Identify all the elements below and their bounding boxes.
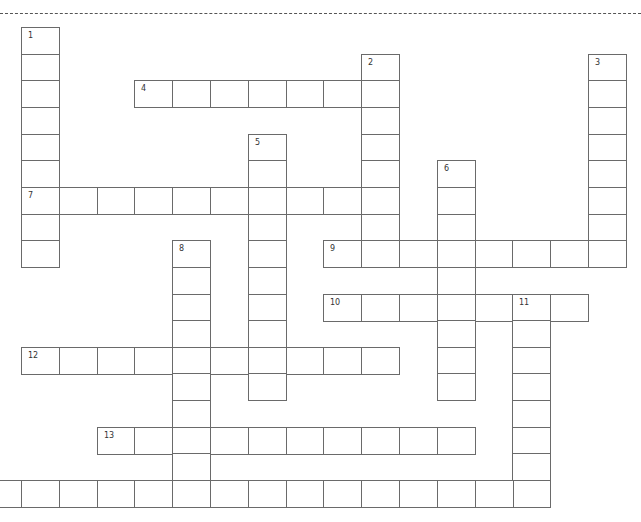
crossword-cell[interactable]: 9 bbox=[323, 240, 362, 268]
crossword-cell[interactable] bbox=[134, 187, 173, 215]
crossword-cell[interactable] bbox=[437, 294, 476, 322]
crossword-cell[interactable] bbox=[588, 80, 627, 108]
crossword-cell[interactable] bbox=[172, 427, 211, 455]
crossword-cell[interactable] bbox=[437, 480, 476, 508]
crossword-cell[interactable] bbox=[134, 480, 173, 508]
crossword-cell[interactable] bbox=[361, 294, 400, 322]
crossword-cell[interactable] bbox=[248, 240, 287, 268]
crossword-cell[interactable] bbox=[399, 294, 438, 322]
crossword-cell[interactable] bbox=[437, 240, 476, 268]
crossword-cell[interactable] bbox=[172, 347, 211, 375]
crossword-cell[interactable] bbox=[0, 480, 22, 508]
crossword-cell[interactable] bbox=[210, 347, 249, 375]
crossword-cell[interactable] bbox=[59, 480, 98, 508]
crossword-cell[interactable] bbox=[323, 480, 362, 508]
crossword-cell[interactable] bbox=[21, 134, 60, 162]
crossword-cell[interactable] bbox=[475, 294, 514, 322]
crossword-cell[interactable] bbox=[475, 480, 514, 508]
crossword-cell[interactable]: 10 bbox=[323, 294, 362, 322]
crossword-cell[interactable] bbox=[248, 294, 287, 322]
crossword-cell[interactable] bbox=[437, 373, 476, 401]
crossword-cell[interactable] bbox=[512, 373, 551, 401]
crossword-cell[interactable] bbox=[172, 294, 211, 322]
crossword-cell[interactable]: 13 bbox=[97, 427, 136, 455]
crossword-cell[interactable] bbox=[512, 240, 551, 268]
crossword-cell[interactable] bbox=[248, 347, 287, 375]
crossword-cell[interactable] bbox=[59, 187, 98, 215]
crossword-cell[interactable] bbox=[512, 480, 551, 508]
crossword-cell[interactable] bbox=[248, 267, 287, 295]
crossword-cell[interactable] bbox=[59, 347, 98, 375]
crossword-cell[interactable] bbox=[437, 187, 476, 215]
crossword-cell[interactable] bbox=[588, 107, 627, 135]
crossword-cell[interactable] bbox=[323, 187, 362, 215]
crossword-cell[interactable] bbox=[512, 347, 551, 375]
crossword-cell[interactable] bbox=[248, 480, 287, 508]
crossword-cell[interactable] bbox=[21, 480, 60, 508]
crossword-cell[interactable] bbox=[588, 134, 627, 162]
crossword-cell[interactable] bbox=[512, 320, 551, 348]
crossword-cell[interactable] bbox=[210, 480, 249, 508]
crossword-cell[interactable] bbox=[21, 160, 60, 188]
crossword-cell[interactable] bbox=[21, 80, 60, 108]
crossword-cell[interactable] bbox=[361, 134, 400, 162]
crossword-cell[interactable] bbox=[21, 240, 60, 268]
crossword-cell[interactable] bbox=[475, 240, 514, 268]
crossword-cell[interactable] bbox=[361, 80, 400, 108]
crossword-cell[interactable] bbox=[248, 427, 287, 455]
crossword-cell[interactable]: 12 bbox=[21, 347, 60, 375]
crossword-cell[interactable] bbox=[21, 107, 60, 135]
crossword-cell[interactable] bbox=[21, 54, 60, 82]
crossword-cell[interactable] bbox=[361, 347, 400, 375]
crossword-cell[interactable] bbox=[361, 107, 400, 135]
crossword-cell[interactable] bbox=[134, 347, 173, 375]
crossword-cell[interactable] bbox=[512, 400, 551, 428]
crossword-cell[interactable] bbox=[512, 453, 551, 481]
crossword-cell[interactable] bbox=[172, 187, 211, 215]
crossword-cell[interactable] bbox=[286, 427, 325, 455]
crossword-cell[interactable] bbox=[210, 80, 249, 108]
crossword-cell[interactable] bbox=[248, 187, 287, 215]
crossword-cell[interactable] bbox=[588, 240, 627, 268]
crossword-cell[interactable]: 11 bbox=[512, 294, 551, 322]
crossword-cell[interactable]: 1 bbox=[21, 27, 60, 55]
crossword-cell[interactable] bbox=[134, 427, 173, 455]
crossword-cell[interactable] bbox=[323, 347, 362, 375]
crossword-cell[interactable]: 6 bbox=[437, 160, 476, 188]
crossword-cell[interactable] bbox=[323, 80, 362, 108]
crossword-cell[interactable] bbox=[361, 214, 400, 242]
crossword-cell[interactable] bbox=[248, 373, 287, 401]
crossword-cell[interactable] bbox=[588, 187, 627, 215]
crossword-cell[interactable] bbox=[172, 267, 211, 295]
crossword-cell[interactable] bbox=[399, 240, 438, 268]
crossword-cell[interactable] bbox=[97, 347, 136, 375]
crossword-cell[interactable] bbox=[361, 187, 400, 215]
crossword-cell[interactable] bbox=[437, 347, 476, 375]
crossword-cell[interactable]: 8 bbox=[172, 240, 211, 268]
crossword-cell[interactable] bbox=[248, 160, 287, 188]
crossword-cell[interactable] bbox=[588, 214, 627, 242]
crossword-cell[interactable] bbox=[172, 373, 211, 401]
crossword-cell[interactable] bbox=[210, 427, 249, 455]
crossword-cell[interactable] bbox=[97, 480, 136, 508]
crossword-cell[interactable] bbox=[172, 320, 211, 348]
crossword-cell[interactable] bbox=[512, 427, 551, 455]
crossword-cell[interactable] bbox=[437, 267, 476, 295]
crossword-cell[interactable] bbox=[361, 160, 400, 188]
crossword-cell[interactable]: 7 bbox=[21, 187, 60, 215]
crossword-cell[interactable]: 4 bbox=[134, 80, 173, 108]
crossword-cell[interactable] bbox=[437, 214, 476, 242]
crossword-cell[interactable] bbox=[248, 320, 287, 348]
crossword-cell[interactable] bbox=[550, 294, 589, 322]
crossword-cell[interactable] bbox=[248, 214, 287, 242]
crossword-cell[interactable] bbox=[210, 187, 249, 215]
crossword-cell[interactable] bbox=[286, 80, 325, 108]
crossword-cell[interactable]: 3 bbox=[588, 54, 627, 82]
crossword-cell[interactable] bbox=[323, 427, 362, 455]
crossword-cell[interactable] bbox=[97, 187, 136, 215]
crossword-cell[interactable] bbox=[361, 240, 400, 268]
crossword-cell[interactable] bbox=[588, 160, 627, 188]
crossword-cell[interactable] bbox=[286, 187, 325, 215]
crossword-cell[interactable] bbox=[172, 80, 211, 108]
crossword-cell[interactable] bbox=[172, 453, 211, 481]
